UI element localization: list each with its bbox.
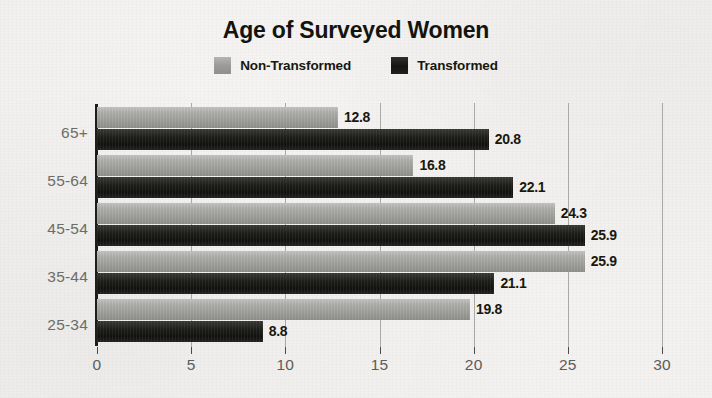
- xtick-label-10: 10: [277, 356, 295, 374]
- bar-55-64-transformed[interactable]: [97, 177, 513, 198]
- bar-45-54-non-transformed[interactable]: [97, 203, 555, 224]
- gridline-30: [662, 103, 663, 347]
- xtick-label-25: 25: [559, 356, 577, 374]
- bar-value-label: 21.1: [494, 273, 526, 294]
- black-swatch-icon: [391, 57, 408, 74]
- xtick-label-15: 15: [371, 356, 389, 374]
- bar-35-44-non-transformed[interactable]: [97, 251, 585, 272]
- xtick-mark-5: [191, 347, 192, 354]
- bar-45-54-transformed[interactable]: [97, 225, 585, 246]
- bar-value-label: 16.8: [413, 155, 445, 176]
- bar-65plus-non-transformed[interactable]: [97, 107, 338, 128]
- category-label-55-64: 55-64: [0, 172, 88, 190]
- value-axis: 051015202530: [97, 347, 662, 379]
- xtick-mark-30: [662, 347, 663, 354]
- gray-swatch-icon: [214, 57, 231, 74]
- legend-label-non-transformed: Non-Transformed: [240, 58, 351, 73]
- category-axis: 65+55-6445-5435-4425-34: [0, 105, 88, 345]
- bar-65plus-transformed[interactable]: [97, 129, 489, 150]
- xtick-label-20: 20: [465, 356, 483, 374]
- bar-value-label: 20.8: [489, 129, 521, 150]
- chart-legend: Non-Transformed Transformed: [0, 57, 712, 74]
- xtick-mark-15: [380, 347, 381, 354]
- xtick-mark-0: [97, 347, 98, 354]
- legend-label-transformed: Transformed: [417, 58, 498, 73]
- xtick-mark-25: [568, 347, 569, 354]
- bar-35-44-transformed[interactable]: [97, 273, 494, 294]
- legend-entry-transformed[interactable]: Transformed: [391, 57, 498, 74]
- xtick-mark-10: [285, 347, 286, 354]
- plot-area: 12.820.816.822.124.325.925.921.119.88.8: [97, 105, 662, 345]
- bar-value-label: 25.9: [585, 225, 617, 246]
- bar-value-label: 8.8: [263, 321, 288, 342]
- bar-value-label: 24.3: [555, 203, 587, 224]
- xtick-label-30: 30: [653, 356, 671, 374]
- bar-value-label: 22.1: [513, 177, 545, 198]
- category-label-45-54: 45-54: [0, 220, 88, 238]
- bar-value-label: 19.8: [470, 299, 502, 320]
- xtick-label-0: 0: [93, 356, 102, 374]
- xtick-mark-20: [474, 347, 475, 354]
- xtick-label-5: 5: [187, 356, 196, 374]
- bar-55-64-non-transformed[interactable]: [97, 155, 413, 176]
- category-label-25-34: 25-34: [0, 316, 88, 334]
- chart-title: Age of Surveyed Women: [0, 17, 712, 44]
- bar-value-label: 25.9: [585, 251, 617, 272]
- category-label-35-44: 35-44: [0, 268, 88, 286]
- legend-entry-non-transformed[interactable]: Non-Transformed: [214, 57, 351, 74]
- bar-25-34-non-transformed[interactable]: [97, 299, 470, 320]
- bar-25-34-transformed[interactable]: [97, 321, 263, 342]
- bar-value-label: 12.8: [338, 107, 370, 128]
- category-label-65plus: 65+: [0, 124, 88, 142]
- bar-chart: Age of Surveyed Women Non-Transformed Tr…: [0, 0, 712, 398]
